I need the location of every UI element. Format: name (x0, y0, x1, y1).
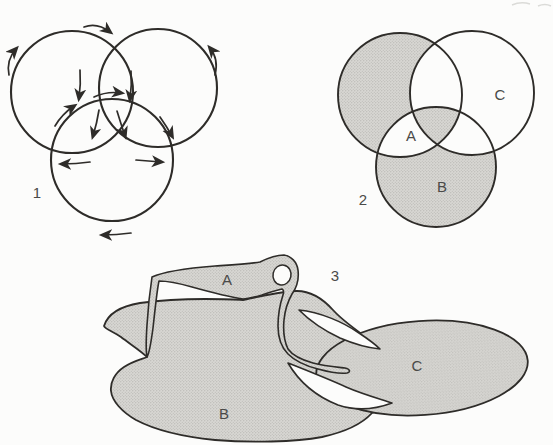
figure-2-venn-diagram: A B C (338, 31, 534, 227)
arrow-inner-left-down (79, 70, 80, 98)
fig1-number: 1 (33, 184, 41, 201)
fig2-number: 2 (359, 191, 367, 208)
figure-3-distorted-venn: A B C (104, 255, 531, 442)
arrow-center-right (94, 93, 121, 98)
fig1-direction-arrows (8, 25, 216, 235)
fig2-label-a: A (406, 127, 416, 144)
fig3-label-c: C (412, 357, 423, 374)
figure-page: 1 A B C 2 A B C 3 (0, 0, 553, 445)
arrow-top-right (84, 25, 110, 32)
fig1-circle-bottom (51, 99, 173, 221)
fig2-label-b: B (437, 178, 447, 195)
arrow-bottom-inner-left (62, 162, 90, 164)
arrow-bottom-inner-right (136, 160, 161, 162)
fig3-label-b: B (219, 405, 229, 422)
figure-1-circles-with-arrows (8, 25, 217, 235)
fig2-label-c: C (495, 86, 506, 103)
diagram-canvas: 1 A B C 2 A B C 3 (0, 0, 553, 445)
fig3-number: 3 (331, 267, 339, 284)
arrow-center-down-left (93, 110, 99, 136)
scan-artifact (512, 3, 551, 6)
fig1-circle-top-right (99, 29, 217, 147)
arrow-bottom-outer-left (103, 233, 131, 235)
fig3-label-a: A (222, 271, 232, 288)
